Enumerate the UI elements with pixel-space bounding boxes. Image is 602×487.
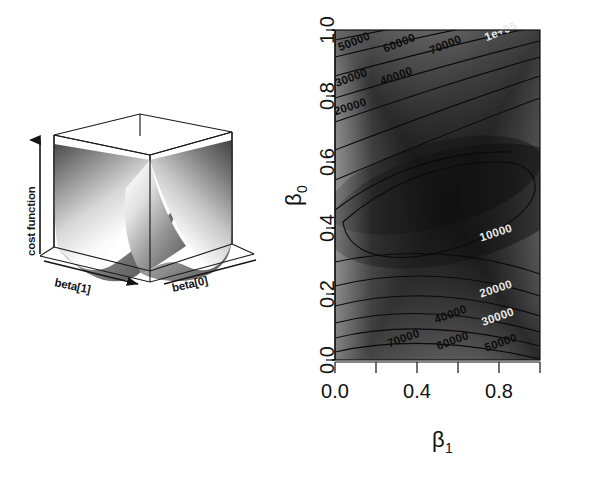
y-axis-title: β 0 — [285, 185, 310, 206]
y-axis: 0.00.20.40.60.81.0 — [316, 16, 338, 374]
x-axis-title: β 1 — [432, 427, 453, 456]
surface-3d-svg: cost function beta[1] beta[0] — [18, 108, 288, 308]
surface-3d-panel: cost function beta[1] beta[0] — [18, 108, 288, 308]
y-axis-title-subscript: 0 — [294, 185, 310, 193]
x-axis-tick-label: 0.4 — [403, 380, 431, 402]
contour-plot-svg: 5000060000700001e+0530000400002000010000… — [285, 10, 600, 480]
y-axis-title-text: β — [285, 193, 306, 206]
x-axis-tick-label: 0.8 — [485, 380, 513, 402]
x-axis-title-text: β — [432, 427, 445, 452]
x-axis-title-subscript: 1 — [445, 440, 453, 456]
surface-x-axis-label: beta[1] — [54, 276, 92, 295]
cost-surface — [54, 140, 233, 281]
contour-plot-panel: 5000060000700001e+0530000400002000010000… — [285, 10, 600, 480]
figure-root: cost function beta[1] beta[0] — [0, 0, 602, 487]
x-axis: 0.00.40.8 — [321, 362, 540, 402]
x-axis-tick-label: 0.0 — [321, 380, 349, 402]
surface-z-axis-label: cost function — [25, 186, 37, 256]
